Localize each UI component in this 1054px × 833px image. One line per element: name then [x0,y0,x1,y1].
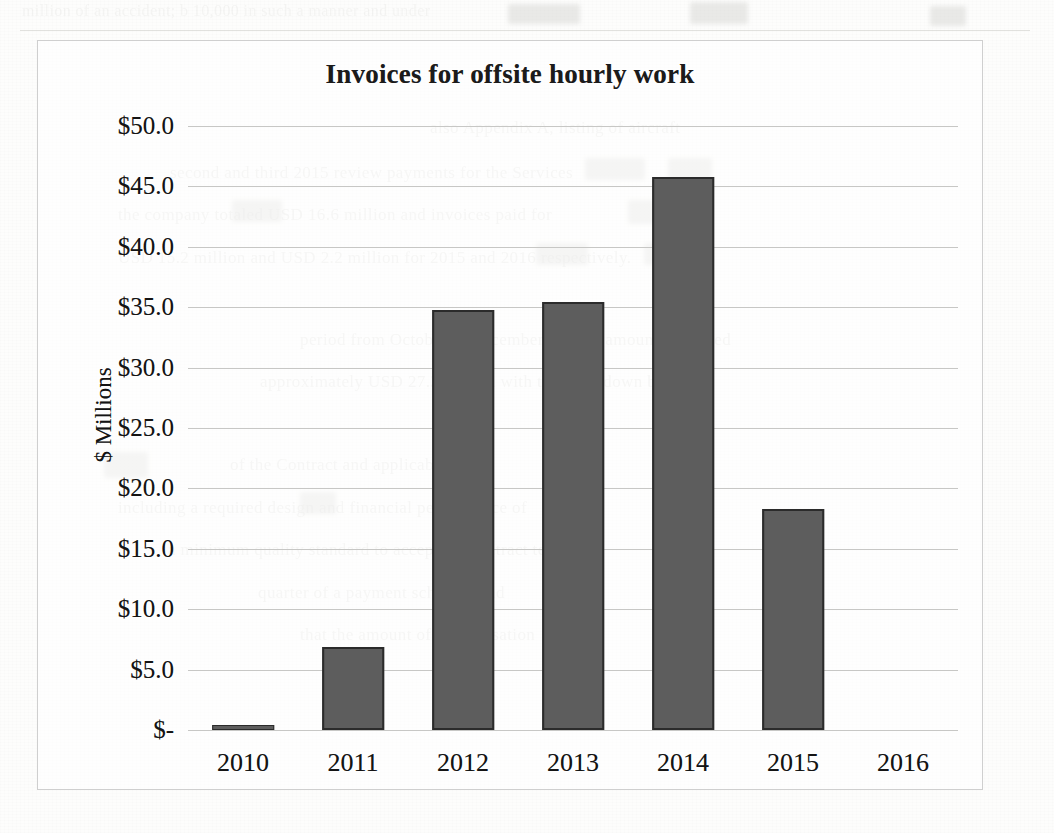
bar-2010[interactable] [212,725,274,730]
bar-2011[interactable] [322,647,384,730]
ghost-rule-top [20,30,1030,31]
bar-slot-2010: 2010 [188,126,298,730]
x-axis-tick-label-2014: 2014 [657,748,709,778]
y-axis-tick-label: $50.0 [118,112,174,140]
y-axis-tick-label: $40.0 [118,233,174,261]
bar-2013[interactable] [542,302,604,730]
bar-slot-2014: 2014 [628,126,738,730]
chart-title: Invoices for offsite hourly work [38,59,982,90]
ghost-text-top: million of an accident; b 10,000 in such… [22,2,430,20]
chart-container: Invoices for offsite hourly work $ Milli… [37,40,983,790]
bar-slot-2011: 2011 [298,126,408,730]
ghost-blotch [508,4,580,24]
y-axis-tick-label: $10.0 [118,595,174,623]
y-axis-tick-label: $5.0 [130,656,174,684]
x-axis-tick-label-2015: 2015 [767,748,819,778]
y-axis-tick-label: $45.0 [118,172,174,200]
y-axis-title: $ Millions [91,367,117,462]
y-axis-tick-label: $30.0 [118,354,174,382]
y-axis-tick-label: $35.0 [118,293,174,321]
bar-slot-2015: 2015 [738,126,848,730]
ghost-blotch [930,6,966,26]
y-axis-tick-label: $25.0 [118,414,174,442]
x-axis-tick-label-2010: 2010 [217,748,269,778]
plot-area: $-$5.0$10.0$15.0$20.0$25.0$30.0$35.0$40.… [188,126,958,730]
x-axis-tick-label-2012: 2012 [437,748,489,778]
ghost-blotch [690,2,748,24]
bar-slot-2012: 2012 [408,126,518,730]
bar-2012[interactable] [432,310,494,730]
y-axis-tick-label: $20.0 [118,474,174,502]
x-axis-tick-label-2016: 2016 [877,748,929,778]
x-axis-tick-label-2011: 2011 [327,748,378,778]
bar-slot-2013: 2013 [518,126,628,730]
bar-slot-2016: 2016 [848,126,958,730]
bar-2015[interactable] [762,509,824,730]
y-axis-tick-label: $- [153,716,174,744]
axis-baseline [188,730,958,731]
y-axis-tick-label: $15.0 [118,535,174,563]
x-axis-tick-label-2013: 2013 [547,748,599,778]
bar-2014[interactable] [652,177,714,730]
bars-group: 2010201120122013201420152016 [188,126,958,730]
